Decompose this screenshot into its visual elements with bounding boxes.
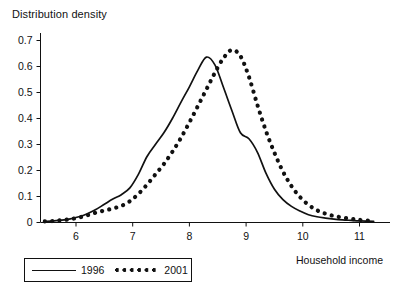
- y-tick-label: 0.4: [7, 112, 33, 124]
- legend-swatch-solid-line: [32, 270, 76, 271]
- y-tick-label: 0.2: [7, 164, 33, 176]
- y-tick-label: 0.1: [7, 190, 33, 202]
- legend: 1996 2001: [24, 258, 192, 282]
- x-tick-label: 11: [350, 230, 370, 242]
- y-tick-label: 0.3: [7, 138, 33, 150]
- axis-lines: [41, 33, 391, 223]
- x-axis-label: Household income: [296, 254, 383, 266]
- y-tick-label: 0.7: [7, 34, 33, 46]
- x-tick-label: 9: [236, 230, 256, 242]
- legend-item-1996: 1996: [32, 264, 104, 276]
- legend-label-2001: 2001: [164, 264, 187, 276]
- y-tick-label: 0: [7, 216, 33, 228]
- x-tick-label: 6: [66, 230, 86, 242]
- legend-item-2001: 2001: [115, 264, 187, 276]
- legend-label-1996: 1996: [81, 264, 104, 276]
- series-line-2001: [45, 50, 374, 222]
- legend-swatch-dotted-line: [115, 268, 159, 272]
- y-tick-label: 0.6: [7, 60, 33, 72]
- x-tick-label: 10: [293, 230, 313, 242]
- density-chart-figure: Distribution density 00.10.20.30.40.50.6…: [0, 0, 403, 290]
- y-axis-ticks: [37, 41, 41, 223]
- x-axis-ticks: [76, 223, 360, 227]
- plot-canvas: [0, 0, 403, 290]
- data-series-group: [45, 50, 374, 222]
- y-tick-label: 0.5: [7, 86, 33, 98]
- x-tick-label: 7: [123, 230, 143, 242]
- x-tick-label: 8: [179, 230, 199, 242]
